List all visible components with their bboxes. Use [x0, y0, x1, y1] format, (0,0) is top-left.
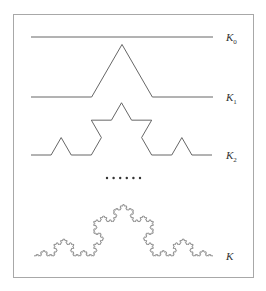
figure-frame	[14, 15, 254, 278]
ellipsis-dots	[106, 177, 141, 179]
ellipsis-dot	[139, 177, 141, 179]
label-k0: K0	[225, 31, 237, 46]
label-subscript: 1	[233, 98, 237, 106]
label-k1: K1	[225, 91, 237, 106]
ellipsis-dot	[132, 177, 134, 179]
ellipsis-dot	[126, 177, 128, 179]
label-k2: K2	[225, 149, 237, 164]
curve-labels-group: K0K1K2K	[225, 31, 237, 262]
koch-curve-k2	[31, 103, 212, 155]
koch-curves-group	[31, 37, 213, 256]
koch-curve-figure: K0K1K2K	[0, 0, 266, 291]
koch-curve-k1	[31, 44, 213, 97]
ellipsis-dot	[106, 177, 108, 179]
ellipsis-dot	[112, 177, 114, 179]
koch-curve-k	[34, 204, 213, 256]
label-subscript: 2	[233, 156, 237, 164]
label-subscript: 0	[233, 38, 237, 46]
label-k: K	[225, 250, 234, 262]
ellipsis-dot	[119, 177, 121, 179]
